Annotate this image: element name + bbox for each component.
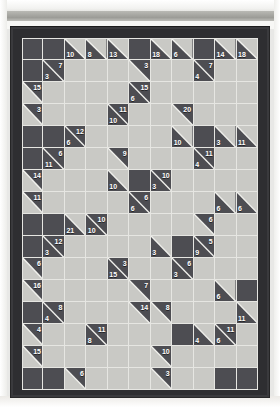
entry-cell[interactable] xyxy=(108,346,129,368)
entry-cell[interactable] xyxy=(151,324,172,346)
entry-cell[interactable] xyxy=(86,192,107,214)
entry-cell[interactable] xyxy=(237,60,258,82)
entry-cell[interactable] xyxy=(194,302,215,324)
entry-cell[interactable] xyxy=(65,192,86,214)
entry-cell[interactable] xyxy=(86,126,107,148)
entry-cell[interactable] xyxy=(129,148,150,170)
entry-cell[interactable] xyxy=(108,192,129,214)
entry-cell[interactable] xyxy=(172,148,193,170)
entry-cell[interactable] xyxy=(194,346,215,368)
entry-cell[interactable] xyxy=(151,104,172,126)
entry-cell[interactable] xyxy=(237,104,258,126)
entry-cell[interactable] xyxy=(172,192,193,214)
entry-cell[interactable] xyxy=(237,170,258,192)
entry-cell[interactable] xyxy=(65,148,86,170)
entry-cell[interactable] xyxy=(215,236,236,258)
entry-cell[interactable] xyxy=(172,280,193,302)
entry-cell[interactable] xyxy=(43,82,64,104)
entry-cell[interactable] xyxy=(43,280,64,302)
entry-cell[interactable] xyxy=(172,368,193,390)
entry-cell[interactable] xyxy=(43,324,64,346)
entry-cell[interactable] xyxy=(172,82,193,104)
entry-cell[interactable] xyxy=(86,170,107,192)
entry-cell[interactable] xyxy=(172,60,193,82)
entry-cell[interactable] xyxy=(215,258,236,280)
entry-cell[interactable] xyxy=(151,258,172,280)
entry-cell[interactable] xyxy=(215,214,236,236)
entry-cell[interactable] xyxy=(86,280,107,302)
entry-cell[interactable] xyxy=(43,104,64,126)
entry-cell[interactable] xyxy=(194,82,215,104)
entry-cell[interactable] xyxy=(151,148,172,170)
entry-cell[interactable] xyxy=(86,302,107,324)
entry-cell[interactable] xyxy=(215,148,236,170)
entry-cell[interactable] xyxy=(237,214,258,236)
entry-cell[interactable] xyxy=(215,104,236,126)
entry-cell[interactable] xyxy=(194,104,215,126)
entry-cell[interactable] xyxy=(194,258,215,280)
entry-cell[interactable] xyxy=(108,324,129,346)
entry-cell[interactable] xyxy=(237,82,258,104)
entry-cell[interactable] xyxy=(215,346,236,368)
entry-cell[interactable] xyxy=(86,104,107,126)
entry-cell[interactable] xyxy=(151,82,172,104)
entry-cell[interactable] xyxy=(65,280,86,302)
entry-cell[interactable] xyxy=(172,214,193,236)
entry-cell[interactable] xyxy=(129,324,150,346)
entry-cell[interactable] xyxy=(172,170,193,192)
entry-cell[interactable] xyxy=(86,258,107,280)
entry-cell[interactable] xyxy=(65,170,86,192)
entry-cell[interactable] xyxy=(108,214,129,236)
entry-cell[interactable] xyxy=(172,346,193,368)
entry-cell[interactable] xyxy=(215,302,236,324)
entry-cell[interactable] xyxy=(151,126,172,148)
entry-cell[interactable] xyxy=(86,346,107,368)
entry-cell[interactable] xyxy=(43,192,64,214)
entry-cell[interactable] xyxy=(65,324,86,346)
entry-cell[interactable] xyxy=(43,258,64,280)
entry-cell[interactable] xyxy=(108,280,129,302)
entry-cell[interactable] xyxy=(65,104,86,126)
entry-cell[interactable] xyxy=(86,60,107,82)
entry-cell[interactable] xyxy=(151,60,172,82)
entry-cell[interactable] xyxy=(65,60,86,82)
entry-cell[interactable] xyxy=(237,236,258,258)
entry-cell[interactable] xyxy=(129,214,150,236)
kakuro-grid[interactable]: 1081318614187337415156311102012610311611… xyxy=(22,38,258,390)
entry-cell[interactable] xyxy=(65,302,86,324)
entry-cell[interactable] xyxy=(65,236,86,258)
entry-cell[interactable] xyxy=(129,346,150,368)
entry-cell[interactable] xyxy=(194,192,215,214)
entry-cell[interactable] xyxy=(86,82,107,104)
entry-cell[interactable] xyxy=(129,236,150,258)
entry-cell[interactable] xyxy=(86,236,107,258)
entry-cell[interactable] xyxy=(129,104,150,126)
entry-cell[interactable] xyxy=(215,82,236,104)
entry-cell[interactable] xyxy=(172,302,193,324)
entry-cell[interactable] xyxy=(65,346,86,368)
entry-cell[interactable] xyxy=(43,346,64,368)
entry-cell[interactable] xyxy=(194,368,215,390)
entry-cell[interactable] xyxy=(237,258,258,280)
entry-cell[interactable] xyxy=(151,192,172,214)
entry-cell[interactable] xyxy=(237,148,258,170)
entry-cell[interactable] xyxy=(194,280,215,302)
entry-cell[interactable] xyxy=(129,368,150,390)
entry-cell[interactable] xyxy=(108,126,129,148)
entry-cell[interactable] xyxy=(194,170,215,192)
entry-cell[interactable] xyxy=(215,60,236,82)
entry-cell[interactable] xyxy=(108,60,129,82)
entry-cell[interactable] xyxy=(86,368,107,390)
entry-cell[interactable] xyxy=(108,82,129,104)
entry-cell[interactable] xyxy=(129,126,150,148)
entry-cell[interactable] xyxy=(108,302,129,324)
entry-cell[interactable] xyxy=(151,280,172,302)
entry-cell[interactable] xyxy=(108,368,129,390)
entry-cell[interactable] xyxy=(65,82,86,104)
entry-cell[interactable] xyxy=(43,170,64,192)
entry-cell[interactable] xyxy=(237,324,258,346)
entry-cell[interactable] xyxy=(215,170,236,192)
entry-cell[interactable] xyxy=(65,258,86,280)
entry-cell[interactable] xyxy=(108,236,129,258)
entry-cell[interactable] xyxy=(86,148,107,170)
